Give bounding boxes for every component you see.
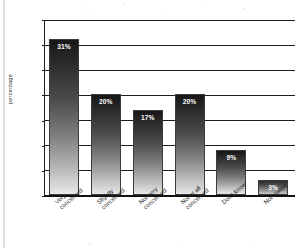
y-tick-mark	[42, 171, 45, 172]
y-tick-mark	[42, 20, 45, 21]
bar-value-label: 20%	[176, 98, 204, 105]
y-tick-mark	[42, 95, 45, 96]
y-tick-mark	[42, 45, 45, 46]
bar-value-label: 17%	[134, 114, 162, 121]
y-axis-label: percentage	[7, 59, 13, 119]
y-tick-mark	[42, 70, 45, 71]
y-tick-mark	[42, 146, 45, 147]
bar: 31%	[49, 39, 79, 195]
bar-value-label: 20%	[92, 98, 120, 105]
bar-value-label: 31%	[50, 43, 78, 50]
bar-value-label: 9%	[217, 154, 245, 161]
y-tick-mark	[42, 121, 45, 122]
y-tick-mark	[42, 196, 45, 197]
bar-chart-figure: percentage 31%20%17%20%9%3% 051015202530…	[0, 0, 302, 248]
